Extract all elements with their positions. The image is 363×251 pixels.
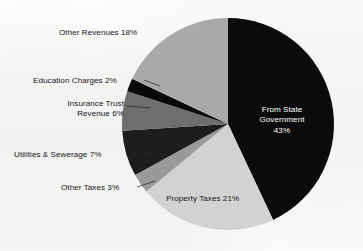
slice-label-other-revenues: Other Revenues 18%	[59, 28, 137, 38]
slice-label-from-state-line3: 43%	[274, 126, 290, 135]
slice-label-from-state-line1: From State	[262, 105, 303, 114]
slice-label-insurance-trust-line2: Revenue 6%	[77, 109, 124, 118]
slice-label-property-taxes: Property Taxes 21%	[166, 194, 239, 204]
slice-label-education-charges: Education Charges 2%	[33, 76, 117, 86]
slice-label-from-state-line2: Government	[259, 115, 304, 124]
pie-chart-screenshot: Other Revenues 18% Education Charges 2% …	[0, 0, 363, 251]
slice-label-insurance-trust-revenue: Insurance Trust Revenue 6%	[42, 99, 124, 119]
slice-label-other-taxes: Other Taxes 3%	[61, 183, 119, 193]
slice-label-utilities-sewerage: Utilities & Sewerage 7%	[14, 150, 102, 160]
slice-label-from-state-government: From State Government 43%	[251, 105, 313, 136]
pie-chart-figure: Other Revenues 18% Education Charges 2% …	[0, 0, 363, 251]
slice-label-insurance-trust-line1: Insurance Trust	[67, 99, 124, 108]
